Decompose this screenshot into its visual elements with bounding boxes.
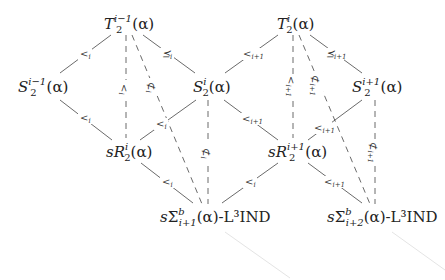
node-S2-i: Si2(α) [193, 76, 231, 98]
node-T2-i: Ti2(α) [277, 13, 314, 35]
node-sSigma-b-i-plus-1: sΣbi+1(α)-L³IND [160, 206, 271, 228]
node-sR2-i: sRi2(α) [106, 141, 152, 163]
faint-stroke [225, 232, 290, 278]
node-sR2-i-plus-1: sRi+12(α) [268, 141, 327, 163]
diagram-canvas: <i ⪯i <i ⊄i <i <i ⊄i <i <i+1 ⪯i+1 <i+1 ⊄… [0, 0, 445, 280]
node-S2-i-plus-1: Si+12(α) [352, 76, 402, 98]
node-sSigma-b-i-plus-2: sΣbi+2(α)-L³IND [327, 206, 438, 228]
faint-stroke [392, 232, 445, 270]
node-S2-i-minus-1: Si−12(α) [18, 76, 68, 98]
node-T2-i-minus-1: Ti−12(α) [104, 13, 154, 35]
edge-labels: <i ⪯i <i ⊄i <i <i ⊄i <i <i+1 ⪯i+1 <i+1 ⊄… [78, 48, 381, 189]
